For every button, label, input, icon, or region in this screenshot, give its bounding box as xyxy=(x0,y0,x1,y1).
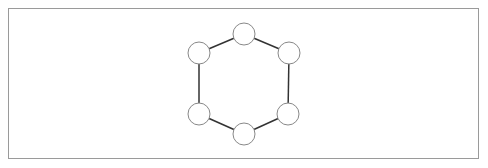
diagram-canvas xyxy=(0,0,488,168)
graph-edges xyxy=(199,34,289,134)
graph-node xyxy=(277,103,299,125)
graph-node xyxy=(233,123,255,145)
graph-node xyxy=(188,103,210,125)
graph-node xyxy=(278,42,300,64)
graph-nodes xyxy=(188,23,300,145)
graph-node xyxy=(233,23,255,45)
hexagon-ring-graph xyxy=(0,0,488,168)
graph-node xyxy=(188,42,210,64)
